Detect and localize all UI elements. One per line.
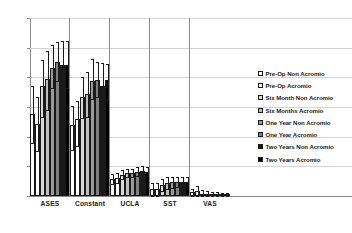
error-bar-cap-top	[56, 42, 60, 43]
error-bar-cap-bottom	[191, 196, 195, 197]
error-bar	[73, 106, 74, 151]
error-bar-cap-bottom	[226, 196, 230, 197]
legend-item[interactable]: Pre-Op Acromio	[258, 79, 352, 91]
error-bar-cap-top	[61, 41, 65, 42]
error-bar-cap-top	[101, 63, 105, 64]
legend-swatch-icon	[258, 83, 263, 88]
bar-group	[150, 18, 190, 196]
error-bar-cap-bottom	[166, 189, 170, 190]
error-bar-cap-bottom	[181, 187, 185, 188]
bar-groups	[30, 18, 230, 196]
error-bar-cap-bottom	[36, 151, 40, 152]
error-bar-cap-top	[141, 166, 145, 167]
error-bar	[68, 41, 69, 88]
error-bar	[98, 62, 99, 98]
error-bar	[148, 167, 149, 176]
error-bar-cap-top	[96, 62, 100, 63]
error-bar	[173, 177, 174, 187]
error-bar-cap-bottom	[176, 187, 180, 188]
error-bar-cap-bottom	[46, 110, 50, 111]
error-bar	[163, 179, 164, 191]
error-bar-cap-top	[36, 97, 40, 98]
error-bar-cap-bottom	[31, 143, 35, 144]
x-axis-label: Constant	[75, 200, 105, 207]
error-bar-cap-top	[116, 173, 120, 174]
error-bar-cap-top	[31, 86, 35, 87]
error-bar	[168, 177, 169, 189]
error-bar-cap-top	[86, 72, 90, 73]
error-bar-cap-top	[51, 45, 55, 46]
error-bar-cap-bottom	[201, 196, 205, 197]
error-bar-cap-bottom	[146, 176, 150, 177]
error-bar-cap-top	[166, 177, 170, 178]
x-axis-label: VAS	[203, 200, 217, 207]
error-bar	[103, 63, 104, 103]
error-bar-cap-bottom	[156, 196, 160, 197]
error-bar-cap-top	[196, 186, 200, 187]
bar-slot	[225, 18, 230, 196]
error-bar	[178, 177, 179, 187]
error-bar	[123, 170, 124, 179]
legend-swatch-icon	[258, 71, 263, 76]
error-bar	[138, 167, 139, 176]
legend-item[interactable]: Two Years Non Acromio	[258, 141, 352, 153]
error-bar	[33, 86, 34, 142]
error-bar-cap-bottom	[131, 177, 135, 178]
legend-swatch-icon	[258, 157, 263, 162]
legend-item[interactable]: One Year Non Acromio	[258, 116, 352, 128]
error-bar-cap-top	[81, 77, 85, 78]
error-bar-cap-top	[216, 192, 220, 193]
error-bar-cap-top	[71, 106, 75, 107]
error-bar-cap-bottom	[71, 150, 75, 151]
error-bar-cap-top	[206, 191, 210, 192]
error-bar-cap-bottom	[111, 184, 115, 185]
error-bar-cap-bottom	[151, 196, 155, 197]
legend-item[interactable]: Six Month Non Acromio	[258, 92, 352, 104]
error-bar-cap-bottom	[106, 100, 110, 101]
error-bar-cap-bottom	[211, 196, 215, 197]
legend-swatch-icon	[258, 144, 263, 149]
error-bar-cap-bottom	[206, 196, 210, 197]
legend-label: Two Years Acromio	[266, 156, 321, 163]
bar-chart: 020406080100120 ASESConstantUCLASSTVAS P…	[0, 0, 352, 233]
legend-item[interactable]: One Year Acromio	[258, 128, 352, 140]
error-bar-cap-bottom	[161, 191, 165, 192]
error-bar-cap-top	[221, 193, 225, 194]
error-bar-cap-top	[161, 179, 165, 180]
error-bar-cap-top	[226, 193, 230, 194]
error-bar-cap-bottom	[116, 183, 120, 184]
error-bar-cap-bottom	[101, 103, 105, 104]
error-bar	[183, 177, 184, 187]
error-bar	[158, 183, 159, 196]
x-axis-label: UCLA	[120, 200, 139, 207]
error-bar	[38, 97, 39, 150]
error-bar	[153, 183, 154, 196]
error-bar-cap-top	[76, 101, 80, 102]
error-bar-cap-top	[46, 51, 50, 52]
error-bar-cap-top	[126, 169, 130, 170]
legend-item[interactable]: Pre-Op Non Acromio	[258, 67, 352, 79]
bar-group	[70, 18, 110, 196]
legend-item[interactable]: Two Years Acromio	[258, 153, 352, 165]
legend-label: Pre-Op Acromio	[266, 82, 312, 89]
error-bar	[58, 42, 59, 81]
x-axis-label: ASES	[41, 200, 60, 207]
error-bar	[133, 169, 134, 178]
x-axis-labels: ASESConstantUCLASSTVAS	[30, 200, 230, 216]
error-bar-cap-bottom	[216, 196, 220, 197]
legend-item[interactable]: Six Months Acromio	[258, 104, 352, 116]
error-bar	[43, 60, 44, 118]
legend-label: One Year Acromio	[266, 131, 318, 138]
error-bar-cap-bottom	[196, 196, 200, 197]
error-bar-cap-top	[91, 59, 95, 60]
error-bar-cap-bottom	[51, 88, 55, 89]
error-bar	[113, 174, 114, 184]
error-bar-cap-top	[131, 169, 135, 170]
error-bar-cap-top	[106, 64, 110, 65]
error-bar-cap-top	[111, 174, 115, 175]
error-bar-cap-bottom	[81, 118, 85, 119]
error-bar-cap-top	[136, 167, 140, 168]
legend-label: One Year Non Acromio	[266, 119, 331, 126]
error-bar-cap-bottom	[66, 88, 70, 89]
error-bar-cap-bottom	[96, 97, 100, 98]
